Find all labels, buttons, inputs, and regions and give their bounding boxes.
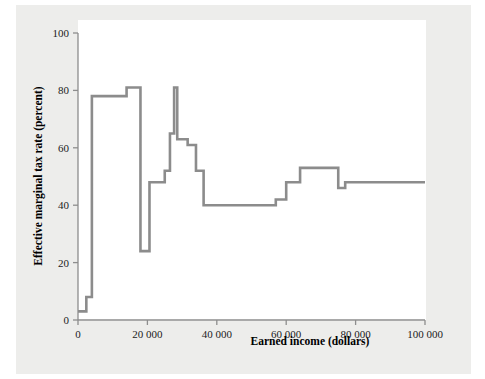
x-axis-title: Earned income (dollars) — [251, 335, 370, 348]
chart-svg: 020406080100 020 00040 00060 00080 00010… — [0, 0, 485, 379]
y-axis-ticks — [73, 33, 78, 320]
x-tick-label-40000: 40 000 — [202, 328, 233, 340]
x-axis-ticks — [78, 320, 425, 325]
y-tick-label-80: 80 — [58, 84, 70, 96]
y-tick-label-100: 100 — [53, 27, 70, 39]
y-tick-label-20: 20 — [58, 257, 70, 269]
y-tick-label-0: 0 — [64, 314, 70, 326]
x-tick-label-20000: 20 000 — [132, 328, 163, 340]
x-tick-label-100000: 100 000 — [407, 328, 443, 340]
figure-page: 020406080100 020 00040 00060 00080 00010… — [0, 0, 485, 379]
y-tick-label-60: 60 — [58, 142, 70, 154]
data-series-line — [78, 88, 425, 312]
x-tick-label-0: 0 — [75, 328, 81, 340]
y-axis-tick-labels: 020406080100 — [53, 27, 70, 326]
y-tick-label-40: 40 — [58, 199, 70, 211]
y-axis-title: Effective marginal tax rate (percent) — [32, 86, 45, 265]
